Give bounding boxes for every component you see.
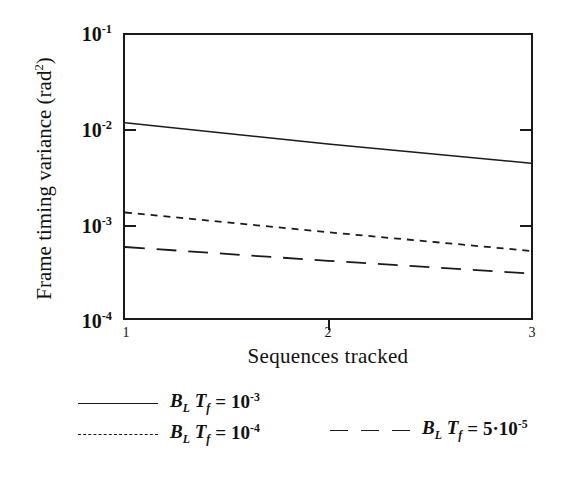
y-tick-label-1e-3: 10-3 [60,215,112,236]
series-line-solid [125,123,531,163]
y-tick-mark-right-1e-3 [520,225,533,227]
legend: BL Tf=10-3 BL Tf=10-4 BL Tf=5·10-5 [0,388,566,487]
plot-curves [125,35,531,318]
x-tick-label-2: 2 [313,325,343,341]
y-tick-label-1e-1: 10-1 [60,23,112,44]
y-tick-label-1e-2: 10-2 [60,119,112,140]
y-axis-title: Frame timing variance (rad2) [32,19,57,339]
legend-swatch-solid-line-icon [78,397,158,411]
legend-label-solid: BL Tf=10-3 [170,390,260,416]
series-line-dashed [125,212,531,250]
figure-chart: Frame timing variance (rad2) 10-1 10-2 1… [0,0,566,487]
y-tick-mark-left-1e-2 [123,129,136,131]
legend-swatch-long-dashed-line-icon [330,424,410,438]
legend-item-dashed: BL Tf=10-4 [78,419,260,450]
plot-area [123,33,533,320]
y-tick-mark-left-1e-3 [123,225,136,227]
y-tick-label-1e-4: 10-4 [60,310,112,331]
legend-label-dashed: BL Tf=10-4 [170,421,260,447]
legend-item-long-dashed: BL Tf=5·10-5 [330,415,528,446]
y-axis-title-superscript: 2 [32,64,46,70]
x-axis-title: Sequences tracked [123,344,533,369]
legend-label-long-dashed: BL Tf=5·10-5 [422,417,528,443]
legend-column-right: BL Tf=5·10-5 [330,415,528,446]
y-tick-mark-right-1e-2 [520,129,533,131]
y-axis-title-text: Frame timing variance (rad [32,71,56,300]
series-line-long-dashed [125,247,531,274]
legend-swatch-dashed-line-icon [78,428,158,442]
legend-column-left: BL Tf=10-3 BL Tf=10-4 [78,388,260,450]
legend-item-solid: BL Tf=10-3 [78,388,260,419]
x-tick-label-3: 3 [517,325,547,341]
y-axis-title-close: ) [32,57,56,64]
x-tick-label-1: 1 [111,325,141,341]
